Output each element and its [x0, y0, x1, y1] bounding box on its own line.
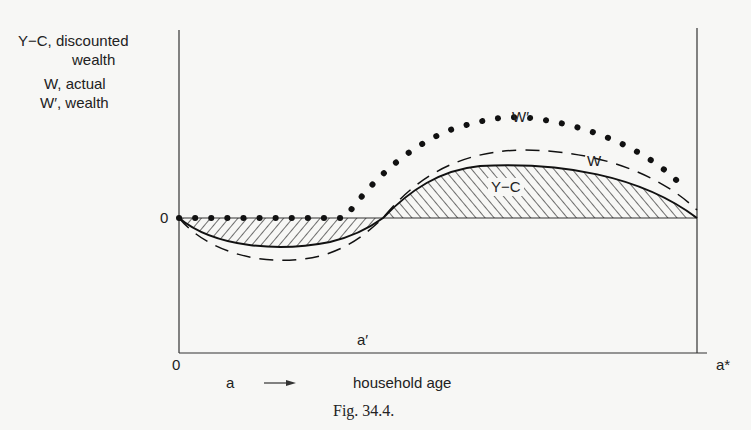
y-zero-label: 0: [160, 209, 168, 227]
figure-caption: Fig. 34.4.: [333, 402, 394, 420]
w-prime-curve-label: W′: [512, 108, 529, 126]
a-prime-label: a′: [357, 331, 368, 349]
y-axis-label-line2: wealth: [72, 51, 115, 69]
y-axis-label-line3: W, actual: [44, 75, 106, 93]
x-axis-arrow-head: [286, 380, 296, 386]
y-axis-label-line4: W′, wealth: [40, 94, 109, 112]
x-origin-label: 0: [172, 356, 180, 374]
y-minus-c-curve-label: Y−C: [488, 178, 524, 196]
x-end-label: a*: [716, 356, 730, 374]
x-axis-label: household age: [353, 374, 451, 392]
w-curve-label: W: [587, 152, 601, 170]
x-arrow-label: a: [226, 374, 234, 392]
y-axis-label-line1: Y−C, discounted: [18, 32, 129, 50]
